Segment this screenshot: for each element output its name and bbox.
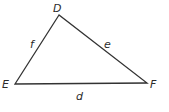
side-label-d: d [76, 90, 84, 103]
triangle-def [15, 15, 147, 84]
vertex-label-f: F [150, 78, 157, 91]
side-label-f: f [30, 38, 36, 51]
side-label-e: e [104, 38, 111, 51]
triangle-diagram: D E F f e d [0, 0, 169, 112]
vertex-label-e: E [2, 78, 9, 91]
vertex-label-d: D [53, 2, 61, 15]
